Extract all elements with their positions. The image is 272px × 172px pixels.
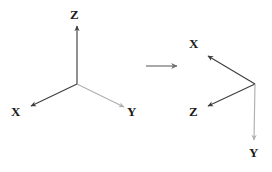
right-frame-group [208,56,255,140]
left-frame-axis-y-line [77,84,124,107]
right-frame-axis-z-line [208,84,255,106]
right-frame-axis-y-line [254,84,255,140]
diagram-canvas [0,0,272,172]
left-frame-label-y: Y [127,105,136,118]
right-frame-label-z: Z [189,105,198,118]
left-frame-group [31,26,124,107]
left-frame-label-z: Z [70,8,79,21]
right-frame-axis-x-line [208,56,255,84]
left-frame-label-x: X [11,105,20,118]
right-frame-label-x: X [189,37,198,50]
coordinate-frame-diagram: Z X Y X Z Y [0,0,272,172]
right-frame-label-y: Y [249,146,258,159]
left-frame-axis-x-line [31,84,77,106]
